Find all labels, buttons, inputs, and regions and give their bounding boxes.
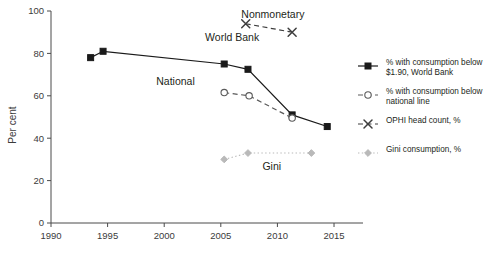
marker-diamond bbox=[308, 150, 315, 157]
legend-label-line2: $1.90, World Bank bbox=[386, 68, 454, 77]
legend-item-1[interactable]: % with consumption belownational line bbox=[358, 87, 483, 106]
legend-label-line1: % with consumption below bbox=[386, 87, 483, 96]
y-tick-label: 100 bbox=[28, 5, 44, 16]
legend-item-2[interactable]: OPHI head count, % bbox=[358, 116, 461, 128]
x-tick-label: 2015 bbox=[323, 230, 344, 241]
marker-circle bbox=[221, 89, 227, 95]
marker-square bbox=[88, 55, 94, 61]
marker-circle bbox=[289, 115, 295, 121]
y-tick-label: 60 bbox=[33, 90, 44, 101]
marker-square bbox=[100, 48, 106, 54]
y-tick-label: 0 bbox=[39, 217, 44, 228]
annotation-national: National bbox=[156, 75, 195, 87]
marker-diamond bbox=[221, 156, 228, 163]
annotation-world-bank: World Bank bbox=[205, 31, 260, 43]
poverty-trend-chart: 020406080100199019952000200520102015Per … bbox=[0, 0, 498, 262]
y-axis-title: Per cent bbox=[7, 106, 18, 143]
y-tick-label: 80 bbox=[33, 48, 44, 59]
marker-circle bbox=[246, 93, 252, 99]
x-tick-label: 2005 bbox=[210, 230, 231, 241]
marker-diamond bbox=[365, 150, 372, 157]
marker-square bbox=[324, 124, 330, 130]
series-line bbox=[224, 93, 292, 118]
marker-square bbox=[365, 63, 371, 69]
annotation-nonmonetary: Nonmonetary bbox=[241, 8, 305, 20]
marker-square bbox=[221, 61, 227, 67]
series-national bbox=[221, 89, 295, 121]
legend-label-line1: Gini consumption, % bbox=[386, 145, 461, 154]
legend-label-line2: national line bbox=[386, 97, 430, 106]
chart-container: 020406080100199019952000200520102015Per … bbox=[0, 0, 498, 262]
marker-square bbox=[245, 66, 251, 72]
marker-diamond bbox=[245, 150, 252, 157]
legend-label-line1: OPHI head count, % bbox=[386, 116, 461, 125]
x-tick-label: 1990 bbox=[40, 230, 61, 241]
legend-label-line1: % with consumption below bbox=[386, 58, 483, 67]
y-tick-label: 40 bbox=[33, 133, 44, 144]
y-tick-label: 20 bbox=[33, 175, 44, 186]
marker-circle bbox=[365, 92, 371, 98]
x-tick-label: 2010 bbox=[267, 230, 288, 241]
x-tick-label: 1995 bbox=[97, 230, 118, 241]
legend-item-0[interactable]: % with consumption below$1.90, World Ban… bbox=[358, 58, 483, 77]
legend-item-3[interactable]: Gini consumption, % bbox=[358, 145, 461, 156]
annotation-gini: Gini bbox=[262, 160, 281, 172]
series-line bbox=[224, 153, 311, 159]
x-tick-label: 2000 bbox=[154, 230, 175, 241]
